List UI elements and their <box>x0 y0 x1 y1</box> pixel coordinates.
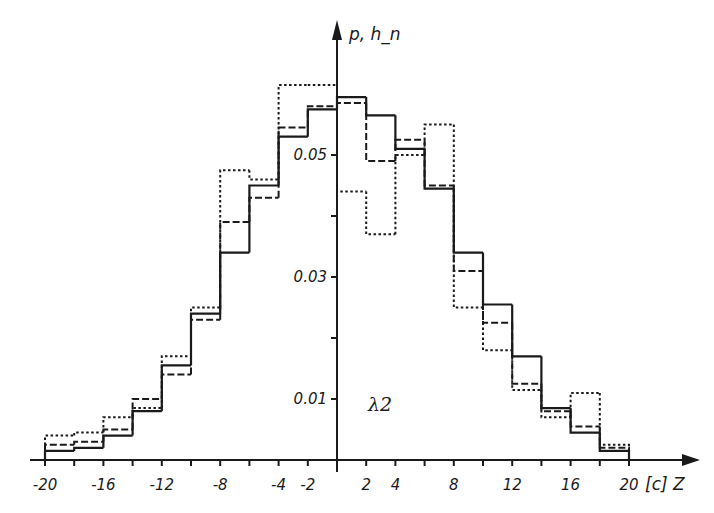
x-tick-label: 20 <box>619 476 638 494</box>
x-axis-arrow-icon <box>682 454 700 466</box>
x-axis-title: [c] Z <box>645 474 685 494</box>
x-tick-label: 8 <box>449 476 459 494</box>
x-tick-label: -16 <box>91 476 116 494</box>
x-tick-label: 16 <box>561 476 580 494</box>
x-tick-label: -8 <box>213 476 228 494</box>
y-tick-label: 0.05 <box>294 146 327 164</box>
x-tick-label: 4 <box>391 476 401 494</box>
y-axis-title: p, h_n <box>348 24 401 45</box>
y-tick-label: 0.01 <box>294 390 327 408</box>
lambda-annotation: λ2 <box>367 393 392 415</box>
axis-labels: -20-16-12-8-4-22481216200.010.030.05p, h… <box>33 24 685 494</box>
y-tick-label: 0.03 <box>294 268 327 286</box>
y-axis-arrow-icon <box>332 20 342 40</box>
x-tick-label: -20 <box>33 476 58 494</box>
x-tick-label: -2 <box>300 476 315 494</box>
x-tick-label: -12 <box>150 476 175 494</box>
x-tick-label: -4 <box>271 476 286 494</box>
histogram-chart: -20-16-12-8-4-22481216200.010.030.05p, h… <box>0 0 714 513</box>
x-tick-label: 2 <box>361 476 371 494</box>
x-tick-label: 12 <box>503 476 522 494</box>
